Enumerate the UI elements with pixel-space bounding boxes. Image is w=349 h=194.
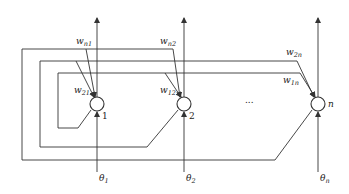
threshold-label-1: θ1 <box>99 174 109 185</box>
threshold-label-n: θn <box>320 174 330 185</box>
node-label-1: 1 <box>102 112 108 121</box>
weight-label-12: w12 <box>160 86 176 97</box>
weight-label-2n: w2n <box>286 48 302 59</box>
weight-label-1n: w1n <box>283 76 299 87</box>
weight-label-n2: wn2 <box>160 37 176 48</box>
weight-label-n1: wn1 <box>76 37 92 48</box>
feedback-loop-n <box>22 49 312 160</box>
ellipsis: ... <box>245 96 254 105</box>
neuron-n <box>311 97 325 111</box>
node-label-2: 2 <box>189 112 195 121</box>
network-diagram <box>0 0 349 194</box>
node-label-n: n <box>328 100 334 109</box>
threshold-label-2: θ2 <box>186 174 196 185</box>
neuron-2 <box>177 97 191 111</box>
neuron-1 <box>90 97 104 111</box>
weight-label-21: w21 <box>74 86 90 97</box>
